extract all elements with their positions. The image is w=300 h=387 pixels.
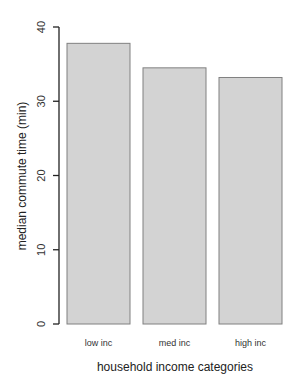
x-axis-labels: low incmed inchigh inc — [85, 338, 267, 348]
bar-low-inc — [67, 43, 130, 324]
y-tick-label: 0 — [35, 321, 47, 327]
bar-chart: 010203040 low incmed inchigh inc median … — [0, 0, 300, 387]
bars — [67, 43, 282, 324]
y-tick-label: 10 — [35, 244, 47, 256]
x-category-label: med inc — [159, 338, 191, 348]
bar-med-inc — [143, 68, 206, 324]
y-axis: 010203040 — [35, 21, 59, 327]
y-tick-label: 30 — [35, 95, 47, 107]
y-axis-title: median commute time (min) — [15, 102, 29, 251]
bar-high-inc — [219, 77, 282, 324]
y-tick-label: 20 — [35, 169, 47, 181]
y-tick-label: 40 — [35, 21, 47, 33]
x-axis-title: household income categories — [97, 360, 253, 374]
x-category-label: low inc — [85, 338, 113, 348]
x-category-label: high inc — [235, 338, 267, 348]
